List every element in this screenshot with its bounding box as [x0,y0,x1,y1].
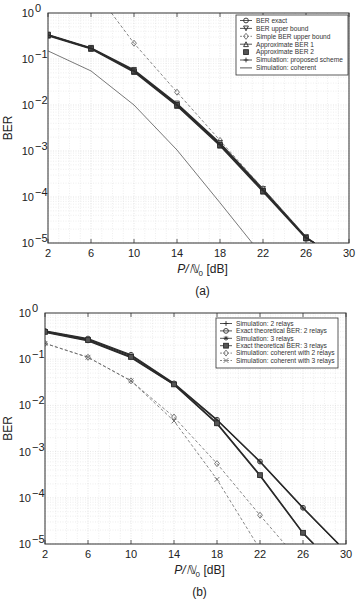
legend-label: BER exact [256,17,287,24]
x-tick-label: 10 [125,548,137,560]
x-tick-label: 14 [168,548,180,560]
x-tick-label: 6 [88,247,94,259]
y-tick-exponent: 0 [35,2,41,14]
x-tick-label: 18 [211,548,223,560]
figure-caption: (a) [195,284,210,298]
x-tick-label: 30 [340,548,352,560]
legend: Simulation: 2 relaysExact theoretical BE… [216,318,338,368]
y-tick-exponent: −1 [35,48,48,60]
y-tick-label: 10 [22,191,34,203]
y-tick-exponent: −4 [35,186,48,198]
y-tick-exponent: −5 [32,533,45,545]
y-tick-label: 10 [19,446,31,458]
x-tick-label: 14 [171,247,183,259]
y-tick-exponent: −2 [35,94,48,106]
y-tick-label: 10 [19,538,31,550]
y-tick-label: 10 [19,353,31,365]
x-tick-label: 22 [257,247,269,259]
figure-caption: (b) [192,585,207,599]
y-tick-label: 10 [19,307,31,319]
figure-a-ber-chart: 26101418222630 10010−110−210−310−410−5 B… [0,0,360,300]
x-axis-label: P/ℕ0 [dB] [174,563,224,579]
x-tick-label: 22 [254,548,266,560]
legend-label: Simulation: coherent [256,64,316,71]
y-tick-exponent: −4 [32,487,45,499]
y-tick-exponent: −3 [32,441,45,453]
y-tick-label: 10 [22,237,34,249]
y-tick-label: 10 [22,7,34,19]
x-tick-label: 26 [297,548,309,560]
figure-b-ber-chart: 26101418222630 10010−110−210−310−410−5 B… [0,300,360,603]
y-tick-label: 10 [22,53,34,65]
x-tick-label: 2 [45,247,51,259]
legend-label: Simulation: proposed scheme [256,56,343,64]
x-tick-labels: 26101418222630 [45,247,355,259]
series-simulation-coherent-with-2-relays [43,340,285,544]
y-tick-labels: 10010−110−210−310−410−5 [19,302,45,550]
legend: BER exactBER upper boundSimple BER upper… [236,15,348,75]
y-tick-label: 10 [19,399,31,411]
y-tick-label: 10 [22,145,34,157]
y-tick-exponent: 0 [32,302,38,314]
x-tick-label: 18 [214,247,226,259]
x-tick-label: 10 [128,247,140,259]
legend-item: Simulation: coherent with 3 relays [220,357,335,365]
series-simulation-coherent-with-3-relays [43,341,257,544]
y-axis-label: BER [1,416,15,441]
y-tick-exponent: −5 [35,232,48,244]
legend-item: Simulation: proposed scheme [240,56,343,64]
legend-label: Simple BER upper bound [256,33,331,41]
x-tick-label: 6 [85,548,91,560]
y-tick-exponent: −2 [32,394,45,406]
x-tick-label: 30 [343,247,355,259]
y-tick-exponent: −1 [32,348,45,360]
x-tick-label: 2 [42,548,48,560]
x-axis-label: P/ℕ0 [dB] [177,262,227,278]
legend-label: BER upper bound [256,25,309,33]
legend-label: Approximate BER 1 [256,41,314,49]
y-axis-label: BER [1,115,15,140]
y-tick-label: 10 [22,99,34,111]
legend-label: Simulation: coherent with 3 relays [236,357,335,365]
y-tick-label: 10 [19,492,31,504]
x-tick-label: 26 [300,247,312,259]
legend-label: Approximate BER 2 [256,48,314,56]
x-tick-labels: 26101418222630 [42,548,352,560]
y-tick-exponent: −3 [35,140,48,152]
y-tick-labels: 10010−110−210−310−410−5 [22,2,48,249]
